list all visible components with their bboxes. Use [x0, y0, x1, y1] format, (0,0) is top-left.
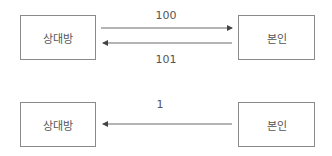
arrow-label-100: 100: [146, 9, 186, 22]
bottom-left-box-label: 상대방: [43, 117, 73, 133]
arrow-label-1: 1: [140, 98, 180, 111]
top-right-box-label: 본인: [267, 30, 287, 46]
bottom-left-box: 상대방: [20, 102, 96, 147]
arrow-label-101: 101: [146, 53, 186, 66]
top-left-box: 상대방: [20, 15, 96, 60]
top-left-box-label: 상대방: [43, 30, 73, 46]
top-right-box: 본인: [238, 15, 315, 60]
bottom-right-box-label: 본인: [267, 117, 287, 133]
bottom-right-box: 본인: [238, 102, 315, 147]
